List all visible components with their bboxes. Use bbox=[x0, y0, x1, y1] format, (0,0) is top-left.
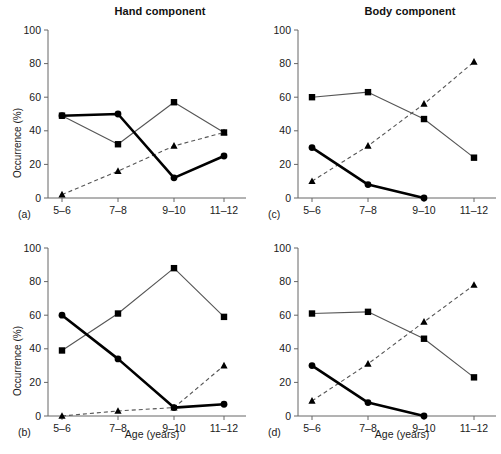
panel-d-series bbox=[308, 281, 477, 419]
series-line-square-thin bbox=[62, 268, 224, 350]
data-point-square bbox=[471, 374, 477, 380]
series-line-circle-thick bbox=[312, 366, 424, 416]
data-point-circle bbox=[171, 404, 178, 411]
panel-b: 0204060801005–67–89–1011–12 Occurrence (… bbox=[0, 236, 251, 454]
panel-label-d: (d) bbox=[268, 426, 281, 438]
y-tick-label: 0 bbox=[35, 192, 41, 204]
panel-b-xlabel: Age (years) bbox=[62, 428, 242, 440]
panel-d: 0204060801005–67–89–1011–12 (d) Age (yea… bbox=[250, 236, 501, 454]
y-tick-label: 80 bbox=[279, 275, 291, 287]
figure-canvas: Hand component Body component 0204060801… bbox=[0, 0, 501, 454]
series-line-square-thin bbox=[62, 102, 224, 144]
data-point-circle bbox=[365, 399, 372, 406]
y-tick-label: 40 bbox=[279, 124, 291, 136]
data-point-square bbox=[221, 314, 227, 320]
y-tick-label: 40 bbox=[279, 342, 291, 354]
series-line-triangle-dashed bbox=[62, 366, 224, 416]
series-line-triangle-dashed bbox=[312, 285, 474, 401]
y-tick-label: 100 bbox=[273, 242, 291, 254]
x-tick-label: 11–12 bbox=[210, 204, 239, 216]
data-point-circle bbox=[221, 401, 228, 408]
x-tick-label: 5–6 bbox=[53, 204, 71, 216]
y-tick-label: 20 bbox=[279, 376, 291, 388]
y-tick-label: 40 bbox=[29, 342, 41, 354]
data-point-triangle bbox=[220, 362, 227, 369]
data-point-circle bbox=[309, 362, 316, 369]
panel-c-series bbox=[308, 58, 477, 201]
y-tick-label: 60 bbox=[29, 309, 41, 321]
data-point-square bbox=[421, 116, 427, 122]
data-point-circle bbox=[115, 111, 122, 118]
x-tick-label: 7–8 bbox=[109, 204, 127, 216]
y-tick-label: 80 bbox=[29, 57, 41, 69]
y-tick-label: 100 bbox=[23, 242, 41, 254]
data-point-triangle bbox=[364, 360, 371, 367]
y-tick-label: 0 bbox=[285, 410, 291, 422]
y-tick-label: 60 bbox=[279, 309, 291, 321]
x-tick-label: 7–8 bbox=[359, 204, 377, 216]
y-tick-label: 80 bbox=[29, 275, 41, 287]
y-tick-label: 40 bbox=[29, 124, 41, 136]
y-tick-label: 0 bbox=[35, 410, 41, 422]
x-tick-label: 5–6 bbox=[303, 204, 321, 216]
y-tick-label: 60 bbox=[279, 91, 291, 103]
panel-a-plot: 0204060801005–67–89–1011–12 bbox=[0, 18, 251, 230]
data-point-triangle bbox=[470, 281, 477, 288]
panel-b-series bbox=[58, 265, 227, 419]
panel-c-plot: 0204060801005–67–89–1011–12 bbox=[250, 18, 501, 230]
y-tick-label: 20 bbox=[29, 376, 41, 388]
data-point-square bbox=[59, 347, 65, 353]
panel-title-hand: Hand component bbox=[70, 5, 250, 17]
panel-label-c: (c) bbox=[268, 208, 280, 220]
panel-d-xlabel: Age (years) bbox=[312, 428, 492, 440]
data-point-square bbox=[365, 309, 371, 315]
y-tick-label: 20 bbox=[29, 158, 41, 170]
data-point-circle bbox=[171, 174, 178, 181]
data-point-square bbox=[115, 310, 121, 316]
series-line-circle-thick bbox=[62, 114, 224, 178]
x-tick-label: 9–10 bbox=[162, 204, 186, 216]
series-line-square-thin bbox=[312, 92, 474, 158]
panel-b-plot: 0204060801005–67–89–1011–12 bbox=[0, 236, 251, 448]
data-point-square bbox=[171, 265, 177, 271]
y-tick-label: 0 bbox=[285, 192, 291, 204]
data-point-circle bbox=[59, 112, 66, 119]
data-point-circle bbox=[421, 195, 428, 202]
panel-c: 0204060801005–67–89–1011–12 (c) bbox=[250, 18, 501, 230]
data-point-square bbox=[421, 336, 427, 342]
panel-a: 0204060801005–67–89–1011–12 Occurrence (… bbox=[0, 18, 251, 230]
y-tick-label: 20 bbox=[279, 158, 291, 170]
data-point-square bbox=[115, 141, 121, 147]
data-point-triangle bbox=[364, 142, 371, 149]
data-point-triangle bbox=[470, 58, 477, 65]
panel-a-series bbox=[58, 99, 227, 197]
data-point-square bbox=[365, 89, 371, 95]
data-point-triangle bbox=[420, 100, 427, 107]
data-point-circle bbox=[309, 144, 316, 151]
data-point-circle bbox=[221, 153, 228, 160]
data-point-triangle bbox=[420, 318, 427, 325]
data-point-triangle bbox=[114, 167, 121, 174]
data-point-circle bbox=[59, 312, 66, 319]
x-tick-label: 9–10 bbox=[412, 204, 436, 216]
panel-d-plot: 0204060801005–67–89–1011–12 bbox=[250, 236, 501, 448]
panel-a-axes: 0204060801005–67–89–1011–12 bbox=[23, 24, 246, 216]
data-point-square bbox=[309, 310, 315, 316]
data-point-square bbox=[171, 99, 177, 105]
series-line-circle-thick bbox=[312, 148, 424, 198]
data-point-circle bbox=[115, 355, 122, 362]
panel-label-a: (a) bbox=[18, 208, 31, 220]
panel-title-body: Body component bbox=[320, 5, 500, 17]
y-tick-label: 100 bbox=[23, 24, 41, 36]
data-point-triangle bbox=[170, 142, 177, 149]
x-tick-label: 11–12 bbox=[460, 204, 489, 216]
panel-d-axes: 0204060801005–67–89–1011–12 bbox=[273, 242, 496, 434]
y-tick-label: 60 bbox=[29, 91, 41, 103]
data-point-triangle bbox=[308, 177, 315, 184]
data-point-square bbox=[309, 94, 315, 100]
y-tick-label: 80 bbox=[279, 57, 291, 69]
data-point-circle bbox=[365, 181, 372, 188]
panel-a-ylabel: Occurrence (%) bbox=[12, 108, 23, 178]
panel-b-ylabel: Occurrence (%) bbox=[12, 326, 23, 396]
panel-label-b: (b) bbox=[18, 426, 31, 438]
